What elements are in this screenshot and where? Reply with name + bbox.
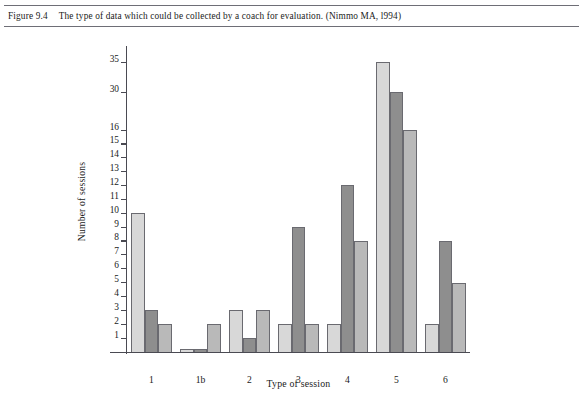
y-tick-mark	[121, 185, 127, 186]
bar-chart: Number of sessions 123456789101112131415…	[0, 34, 583, 411]
y-tick-label: 30	[89, 85, 119, 94]
y-tick-label: 13	[89, 164, 119, 173]
figure-caption-block: Figure 9.4 The type of data which could …	[0, 0, 583, 27]
y-tick-mark	[121, 240, 127, 241]
bar	[131, 213, 145, 352]
bar	[292, 227, 306, 352]
x-axis-title: Type of session	[127, 378, 470, 389]
y-tick-mark	[121, 130, 127, 131]
y-tick-mark	[121, 171, 127, 172]
bar	[145, 310, 159, 352]
y-tick-mark	[121, 92, 127, 93]
bar	[341, 185, 355, 352]
y-tick-label: 15	[89, 136, 119, 145]
bar	[425, 324, 439, 352]
figure-number: Figure 9.4	[8, 11, 48, 21]
y-tick-label: 5	[89, 275, 119, 284]
y-tick-label: 12	[89, 178, 119, 187]
bar	[180, 349, 194, 353]
y-tick-mark	[121, 338, 127, 339]
y-tick-label: 35	[89, 55, 119, 64]
figure-caption-text: The type of data which could be collecte…	[59, 11, 401, 21]
y-tick-mark	[121, 143, 127, 144]
y-axis-title: Number of sessions	[76, 52, 87, 352]
bar	[354, 241, 368, 352]
y-tick-label: 4	[89, 289, 119, 298]
bar	[194, 349, 208, 353]
y-tick-mark	[121, 282, 127, 283]
bar	[243, 338, 257, 352]
bar	[256, 310, 270, 352]
y-tick-label: 7	[89, 247, 119, 256]
y-tick-label: 1	[89, 331, 119, 340]
y-tick-label: 2	[89, 317, 119, 326]
bar	[229, 310, 243, 352]
y-tick-label: 3	[89, 303, 119, 312]
y-tick-mark	[121, 268, 127, 269]
y-tick-label: 6	[89, 261, 119, 270]
bar	[158, 324, 172, 352]
x-axis-line	[110, 352, 470, 353]
y-tick-mark	[121, 254, 127, 255]
bar	[403, 130, 417, 352]
y-tick-label: 9	[89, 220, 119, 229]
y-tick-mark	[121, 296, 127, 297]
bar	[207, 324, 221, 352]
y-tick-mark	[121, 157, 127, 158]
y-tick-mark	[121, 324, 127, 325]
y-tick-label: 14	[89, 150, 119, 159]
bar	[278, 324, 292, 352]
bar	[439, 241, 453, 352]
y-tick-label: 8	[89, 233, 119, 242]
y-tick-label: 10	[89, 206, 119, 215]
bar	[305, 324, 319, 352]
y-tick-mark	[121, 62, 127, 63]
bar	[376, 62, 390, 352]
caption-rule-bottom	[4, 26, 579, 27]
y-tick-mark	[121, 227, 127, 228]
y-tick-label: 16	[89, 123, 119, 132]
caption-row: Figure 9.4 The type of data which could …	[0, 6, 583, 26]
y-tick-mark	[121, 310, 127, 311]
y-tick-label: 11	[89, 192, 119, 201]
y-tick-mark	[121, 199, 127, 200]
plot-area: Number of sessions 123456789101112131415…	[127, 48, 470, 352]
y-tick-mark	[121, 213, 127, 214]
bar	[452, 283, 466, 352]
bar	[327, 324, 341, 352]
bar	[390, 92, 404, 352]
